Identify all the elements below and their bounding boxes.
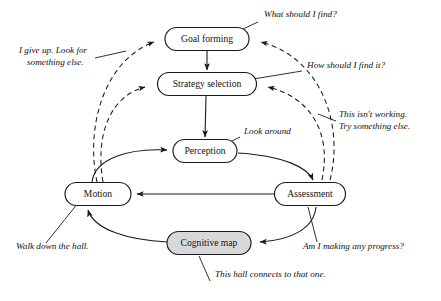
node-strategy-selection-label: Strategy selection bbox=[173, 78, 242, 89]
node-perception-label: Perception bbox=[184, 145, 225, 156]
annotation-what-should-i-find: What should I find? bbox=[264, 9, 353, 19]
node-cognitive-map-label: Cognitive map bbox=[181, 237, 238, 248]
node-assessment-label: Assessment bbox=[287, 188, 333, 199]
node-cognitive-map[interactable]: Cognitive map bbox=[167, 232, 251, 255]
edge-motion-to-goal-forming bbox=[94, 42, 154, 182]
edge-perception-to-assessment bbox=[238, 153, 313, 180]
leader-this-hall-connects bbox=[199, 256, 210, 281]
node-assessment[interactable]: Assessment bbox=[275, 183, 346, 206]
annotation-how-should-i-find-it: How should I find it? bbox=[306, 60, 401, 70]
annotation-am-i-making-any-progress: Am I making any progress? bbox=[302, 241, 420, 251]
edge-strategy-to-perception bbox=[205, 96, 206, 137]
node-goal-forming[interactable]: Goal forming bbox=[165, 28, 249, 51]
node-motion[interactable]: Motion bbox=[65, 183, 131, 206]
diagram-canvas: Goal forming Strategy selection Percepti… bbox=[0, 0, 441, 301]
annotation-this-isnt-working: This isn't working. Try something else. bbox=[339, 109, 428, 131]
leader-this-isnt-working bbox=[318, 114, 336, 121]
node-motion-label: Motion bbox=[84, 188, 112, 199]
annotation-walk-down-the-hall: Walk down the hall. bbox=[16, 241, 105, 251]
node-strategy-selection[interactable]: Strategy selection bbox=[158, 73, 257, 96]
annotation-i-give-up: I give up. Look for something else. bbox=[18, 45, 108, 67]
annotation-this-hall-connects-to-that-one: This hall connects to that one. bbox=[215, 269, 342, 279]
edge-cognitive-map-to-motion bbox=[88, 210, 167, 242]
edge-motion-to-perception bbox=[92, 150, 167, 182]
leader-am-i-making-progress bbox=[308, 207, 317, 242]
leader-walk-down-the-hall bbox=[46, 203, 78, 243]
cognitive-navigation-diagram: Goal forming Strategy selection Percepti… bbox=[0, 0, 441, 301]
edge-assessment-to-cognitive-map bbox=[260, 207, 316, 242]
node-goal-forming-label: Goal forming bbox=[181, 33, 233, 44]
node-perception[interactable]: Perception bbox=[173, 140, 237, 163]
edge-motion-to-strategy-selection bbox=[101, 87, 145, 182]
annotation-look-around: Look around bbox=[243, 126, 307, 136]
nodes-group: Goal forming Strategy selection Percepti… bbox=[65, 28, 346, 255]
